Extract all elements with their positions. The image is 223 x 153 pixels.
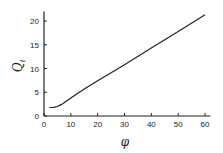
y-axis-label: Qi bbox=[11, 59, 27, 72]
x-tick-label: 30 bbox=[120, 120, 129, 129]
x-axis-label: φ bbox=[121, 135, 130, 149]
y-tick-label: 0 bbox=[35, 112, 40, 121]
y-tick-label: 15 bbox=[30, 41, 39, 50]
axes: 010203040506005101520 bbox=[30, 12, 210, 130]
data-line bbox=[49, 15, 205, 108]
y-tick-label: 5 bbox=[35, 88, 40, 97]
x-tick-label: 60 bbox=[201, 120, 210, 129]
svg-text:Qi: Qi bbox=[11, 59, 27, 72]
x-tick-label: 0 bbox=[42, 120, 47, 129]
y-tick-label: 10 bbox=[30, 65, 39, 74]
y-tick-label: 20 bbox=[30, 17, 39, 26]
x-tick-label: 20 bbox=[93, 120, 102, 129]
x-tick-label: 10 bbox=[66, 120, 75, 129]
line-chart: 010203040506005101520 φ Qi bbox=[0, 0, 223, 153]
x-tick-label: 50 bbox=[174, 120, 183, 129]
x-tick-label: 40 bbox=[147, 120, 156, 129]
